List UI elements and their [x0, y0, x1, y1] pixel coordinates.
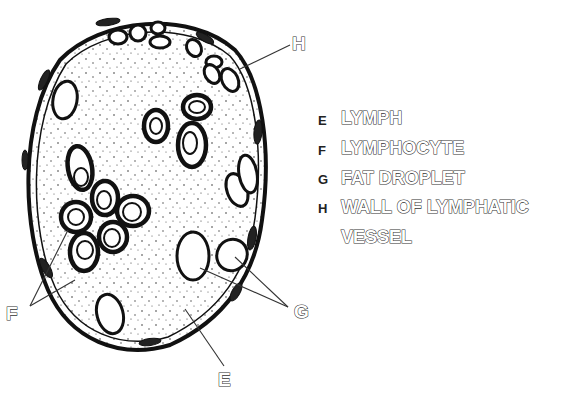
label-h: H: [292, 33, 306, 54]
label-e: E: [218, 369, 231, 390]
legend-letter-e: E: [318, 113, 327, 128]
legend-term-lymph: LYMPH: [341, 108, 402, 128]
lymphatic-vessel-diagram: H F G E E LYMPH F LYMPHOCYTE G FAT DROPL…: [0, 0, 580, 402]
legend-letter-f: F: [318, 143, 326, 158]
legend-term-wall-line2: VESSEL: [341, 227, 412, 247]
lymphocyte: [144, 110, 168, 142]
legend-letter-g: G: [318, 172, 328, 187]
lymphocyte: [61, 202, 91, 232]
lymphocyte: [99, 222, 127, 252]
lymphocyte: [117, 196, 149, 226]
lymphocyte: [183, 95, 211, 119]
lymphocyte: [92, 181, 118, 215]
lymphocyte: [178, 123, 206, 167]
legend-letter-h: H: [318, 201, 327, 216]
legend-term-wall: WALL OF LYMPHATIC: [341, 197, 529, 217]
legend-term-fat-droplet: FAT DROPLET: [341, 168, 465, 188]
label-g: G: [294, 301, 309, 322]
legend: E LYMPH F LYMPHOCYTE G FAT DROPLET H WAL…: [318, 108, 529, 247]
label-f: F: [6, 303, 18, 324]
lymphocyte: [70, 233, 98, 271]
legend-term-lymphocyte: LYMPHOCYTE: [341, 138, 464, 158]
